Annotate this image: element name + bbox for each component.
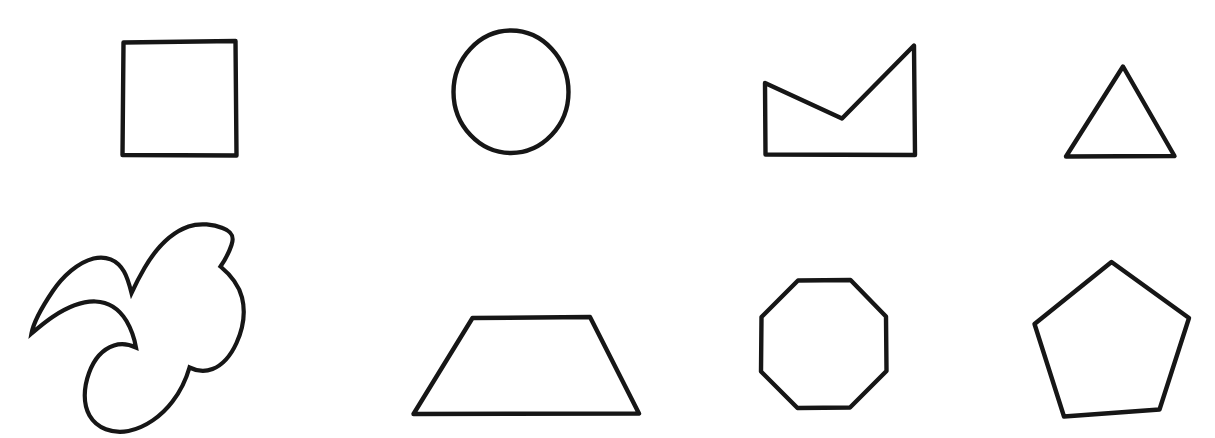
top-row-group [123, 31, 1175, 157]
circle-shape [454, 31, 569, 154]
triangle-shape [1066, 67, 1175, 157]
bottom-row-group [32, 224, 1190, 432]
shapes-figure [0, 0, 1215, 438]
octagon-shape [761, 280, 887, 408]
square-shape [123, 41, 237, 156]
trapezoid-shape [414, 317, 640, 414]
blob-shape [32, 224, 244, 432]
heptagon-shape [1035, 262, 1190, 417]
shapes-canvas [0, 0, 1215, 438]
arrow-polygon-shape [765, 46, 915, 156]
